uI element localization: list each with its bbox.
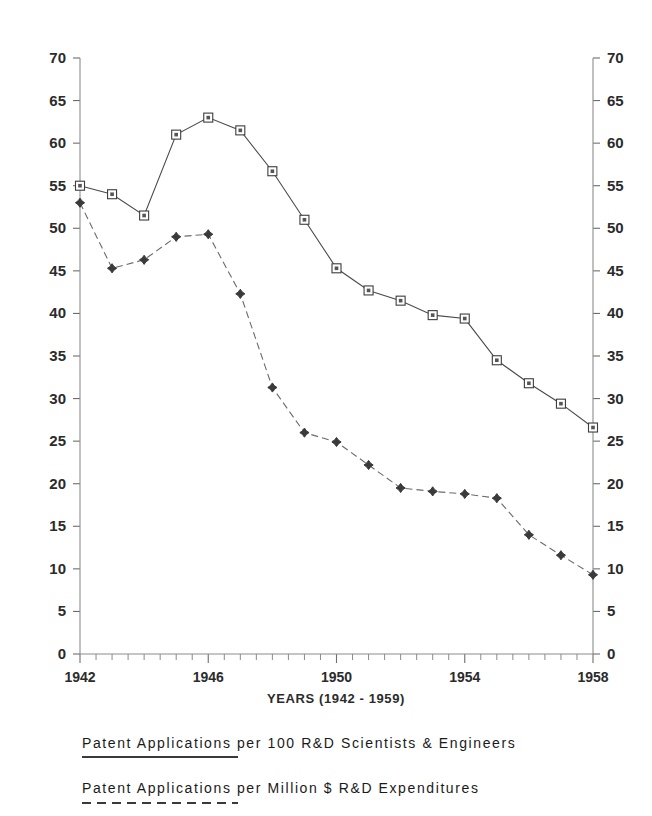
data-point-marker-star <box>204 230 213 239</box>
y-tick-label-right: 50 <box>607 219 624 236</box>
y-tick-label-right: 35 <box>607 347 624 364</box>
x-axis-ticks <box>80 654 593 663</box>
y-tick-label-left: 45 <box>49 262 66 279</box>
data-point-marker-center <box>335 267 339 271</box>
y-axis-right-ticks <box>593 58 600 654</box>
data-point-marker-center <box>206 116 210 120</box>
y-tick-label-left: 20 <box>49 475 66 492</box>
data-point-marker-center <box>142 214 146 218</box>
data-point-marker-star <box>556 551 565 560</box>
data-point-marker-center <box>239 129 243 133</box>
y-tick-label-left: 65 <box>49 92 66 109</box>
data-point-marker-center <box>110 192 114 196</box>
y-tick-label-right: 65 <box>607 92 624 109</box>
data-point-marker-star <box>588 570 597 579</box>
y-tick-label-right: 15 <box>607 517 624 534</box>
y-tick-label-right: 0 <box>607 645 615 662</box>
data-point-marker-star <box>428 487 437 496</box>
data-point-marker-star <box>396 483 405 492</box>
data-point-marker-star <box>300 428 309 437</box>
data-point-marker-center <box>495 358 499 362</box>
data-point-marker-star <box>236 289 245 298</box>
x-tick-label: 1954 <box>449 669 480 685</box>
x-tick-label: 1958 <box>577 669 608 685</box>
x-tick-label: 1942 <box>64 669 95 685</box>
y-tick-label-right: 5 <box>607 602 615 619</box>
y-tick-label-right: 55 <box>607 177 624 194</box>
data-point-marker-center <box>431 313 435 317</box>
data-point-marker-center <box>303 218 307 222</box>
series-markers-scientists-engineers <box>76 113 598 432</box>
y-tick-label-left: 15 <box>49 517 66 534</box>
x-tick-label: 1950 <box>321 669 352 685</box>
x-axis-labels: 19421946195019541958 <box>64 669 608 685</box>
y-axis-right-labels: 0510152025303540455055606570 <box>607 49 624 662</box>
patent-applications-line-chart: 0510152025303540455055606570 05101520253… <box>0 0 652 816</box>
y-tick-label-right: 40 <box>607 304 624 321</box>
y-tick-label-left: 30 <box>49 390 66 407</box>
y-tick-label-left: 70 <box>49 49 66 66</box>
y-tick-label-right: 25 <box>607 432 624 449</box>
data-point-marker-star <box>492 494 501 503</box>
data-point-marker-center <box>399 299 403 303</box>
data-point-marker-star <box>107 264 116 273</box>
data-point-marker-star <box>460 489 469 498</box>
data-point-marker-star <box>332 437 341 446</box>
y-axis-left-ticks <box>73 58 80 654</box>
y-axis-left-labels: 0510152025303540455055606570 <box>49 49 66 662</box>
legend-label-scientists-engineers: Patent Applications per 100 R&D Scientis… <box>82 735 516 751</box>
y-tick-label-left: 10 <box>49 560 66 577</box>
y-tick-label-left: 55 <box>49 177 66 194</box>
y-tick-label-right: 10 <box>607 560 624 577</box>
y-tick-label-left: 25 <box>49 432 66 449</box>
data-point-marker-star <box>140 255 149 264</box>
data-point-marker-star <box>268 383 277 392</box>
y-tick-label-right: 70 <box>607 49 624 66</box>
legend: Patent Applications per 100 R&D Scientis… <box>82 735 516 803</box>
y-tick-label-right: 60 <box>607 134 624 151</box>
data-point-marker-star <box>75 198 84 207</box>
y-tick-label-right: 20 <box>607 475 624 492</box>
data-point-marker-center <box>271 169 275 173</box>
y-tick-label-left: 60 <box>49 134 66 151</box>
series-markers-expenditures <box>75 198 597 579</box>
legend-label-expenditures: Patent Applications per Million $ R&D Ex… <box>82 780 480 796</box>
y-tick-label-left: 40 <box>49 304 66 321</box>
data-point-marker-center <box>591 426 595 430</box>
data-point-marker-center <box>367 289 371 293</box>
data-point-marker-center <box>78 184 82 188</box>
data-point-marker-center <box>174 133 178 137</box>
data-point-marker-center <box>463 317 467 321</box>
y-tick-label-left: 35 <box>49 347 66 364</box>
x-axis-title: YEARS (1942 - 1959) <box>267 691 405 706</box>
y-tick-label-right: 45 <box>607 262 624 279</box>
data-point-marker-center <box>559 402 563 406</box>
y-tick-label-left: 0 <box>58 645 66 662</box>
x-tick-label: 1946 <box>193 669 224 685</box>
data-point-marker-star <box>172 232 181 241</box>
data-point-marker-center <box>527 381 531 385</box>
series-line-expenditures <box>80 203 593 575</box>
data-point-marker-star <box>364 460 373 469</box>
y-tick-label-right: 30 <box>607 390 624 407</box>
y-tick-label-left: 50 <box>49 219 66 236</box>
y-tick-label-left: 5 <box>58 602 66 619</box>
chart-figure: 0510152025303540455055606570 05101520253… <box>0 0 652 816</box>
